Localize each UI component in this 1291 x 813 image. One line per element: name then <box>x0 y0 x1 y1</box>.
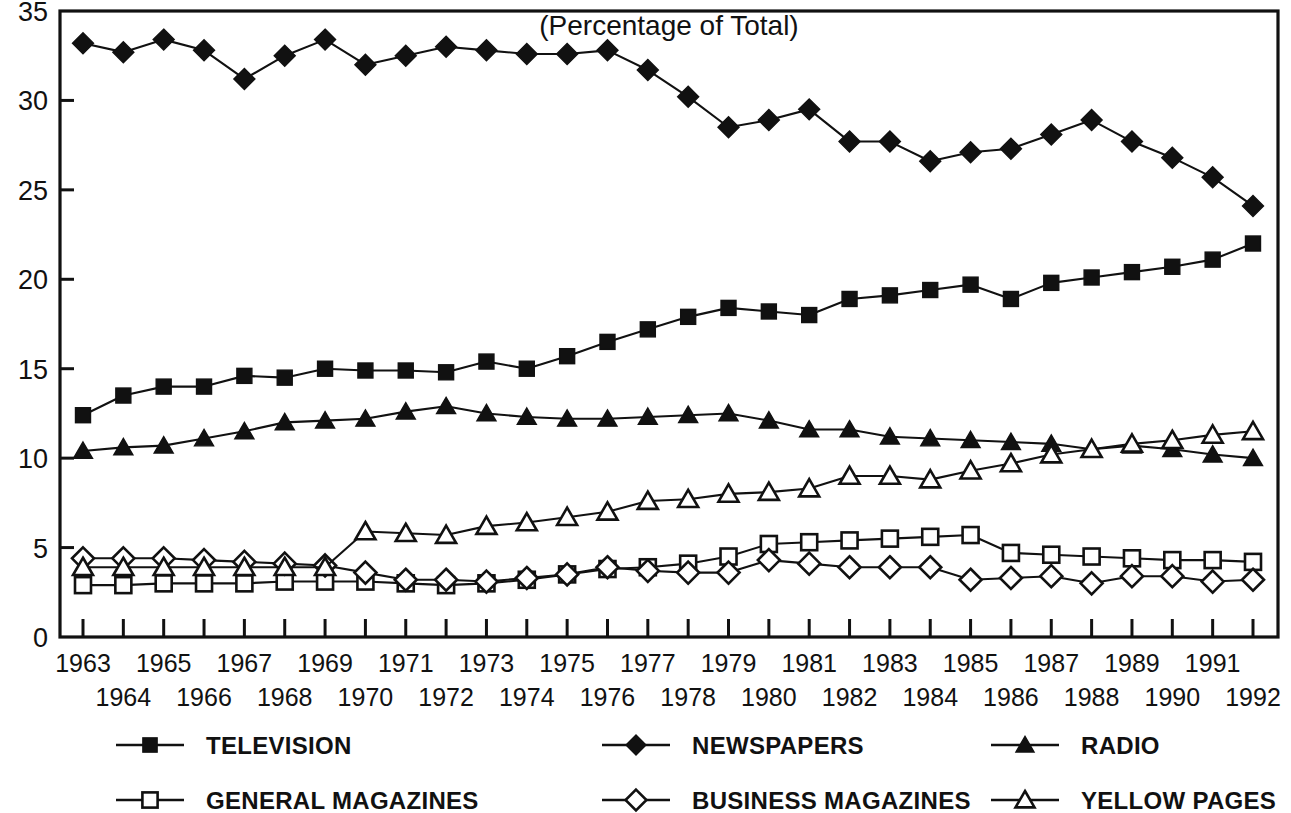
legend-entry-radio[interactable]: RADIO <box>991 732 1160 759</box>
marker-filled-square <box>560 349 575 364</box>
marker-open-diamond <box>1121 565 1143 587</box>
marker-filled-square <box>1003 291 1018 306</box>
x-tick-label-lower: 1970 <box>338 683 394 711</box>
marker-open-square <box>115 577 131 593</box>
marker-filled-square <box>156 379 171 394</box>
marker-filled-diamond <box>113 42 134 63</box>
marker-filled-diamond <box>476 40 497 61</box>
marker-open-diamond <box>798 553 820 575</box>
x-tick-label-upper: 1987 <box>1023 649 1079 677</box>
x-tick-label-lower: 1990 <box>1144 683 1200 711</box>
marker-filled-diamond <box>799 99 820 120</box>
marker-filled-square <box>802 308 817 323</box>
x-tick-label-lower: 1988 <box>1064 683 1120 711</box>
x-tick-label-upper: 1973 <box>459 649 515 677</box>
marker-filled-diamond <box>626 735 646 755</box>
x-tick-label-upper: 1977 <box>620 649 676 677</box>
series-newspapers <box>73 29 1264 216</box>
x-tick-label-upper: 1983 <box>862 649 918 677</box>
legend-entry-label: BUSINESS MAGAZINES <box>692 787 971 813</box>
series-line <box>83 535 1253 585</box>
x-tick-label-upper: 1989 <box>1104 649 1160 677</box>
marker-filled-square <box>600 334 615 349</box>
x-tick-label-lower: 1964 <box>96 683 152 711</box>
marker-filled-square <box>479 354 494 369</box>
marker-filled-diamond <box>1202 167 1223 188</box>
y-tick-label: 25 <box>18 176 48 206</box>
marker-filled-diamond <box>153 29 174 50</box>
marker-filled-square <box>143 738 157 752</box>
legend-entry-label: TELEVISION <box>206 732 352 759</box>
marker-filled-triangle <box>719 404 738 420</box>
marker-filled-square <box>842 291 857 306</box>
marker-open-diamond <box>919 556 941 578</box>
legend-entry-business-magazines[interactable]: BUSINESS MAGAZINES <box>602 787 971 813</box>
marker-filled-square <box>439 365 454 380</box>
marker-filled-diamond <box>718 117 739 138</box>
x-tick-label-lower: 1972 <box>418 683 474 711</box>
marker-filled-diamond <box>194 40 215 61</box>
marker-filled-square <box>519 361 534 376</box>
marker-filled-square <box>318 361 333 376</box>
legend-entry-label: NEWSPAPERS <box>692 732 864 759</box>
marker-open-square <box>1205 552 1221 568</box>
marker-filled-diamond <box>516 43 537 64</box>
series-line <box>83 558 1253 583</box>
x-tick-label-lower: 1982 <box>822 683 878 711</box>
marker-open-diamond <box>626 790 647 811</box>
marker-filled-square <box>761 304 776 319</box>
marker-filled-triangle <box>437 397 456 413</box>
marker-filled-square <box>1044 275 1059 290</box>
legend-entry-general-magazines[interactable]: GENERAL MAGAZINES <box>116 787 479 813</box>
line-chart-figure: (Percentage of Total) 35302520151050 196… <box>0 0 1291 813</box>
marker-open-diamond <box>1202 571 1224 593</box>
marker-filled-diamond <box>234 68 255 89</box>
marker-filled-square <box>923 283 938 298</box>
marker-filled-square <box>721 300 736 315</box>
marker-open-square <box>1003 545 1019 561</box>
chart-legend: TELEVISIONNEWSPAPERSRADIOGENERAL MAGAZIN… <box>116 732 1276 813</box>
marker-filled-square <box>197 379 212 394</box>
legend-entry-newspapers[interactable]: NEWSPAPERS <box>602 732 864 759</box>
marker-filled-diamond <box>758 110 779 131</box>
marker-filled-square <box>1246 236 1261 251</box>
marker-filled-square <box>237 368 252 383</box>
legend-entry-label: GENERAL MAGAZINES <box>206 787 479 813</box>
marker-filled-diamond <box>678 86 699 107</box>
marker-open-square <box>142 792 157 807</box>
marker-open-diamond <box>879 556 901 578</box>
legend-entry-label: YELLOW PAGES <box>1081 787 1276 813</box>
series-line <box>83 431 1253 567</box>
marker-filled-diamond <box>315 29 336 50</box>
marker-open-square <box>922 529 938 545</box>
marker-filled-diamond <box>960 142 981 163</box>
marker-filled-diamond <box>1243 195 1264 216</box>
marker-open-square <box>842 532 858 548</box>
x-tick-label-lower: 1980 <box>741 683 797 711</box>
series-line <box>83 40 1253 206</box>
chart-title: (Percentage of Total) <box>539 10 798 41</box>
legend-entry-label: RADIO <box>1081 732 1160 759</box>
marker-open-diamond <box>1040 565 1062 587</box>
marker-filled-square <box>116 388 131 403</box>
marker-filled-diamond <box>1162 147 1183 168</box>
marker-filled-square <box>1205 252 1220 267</box>
y-tick-label: 30 <box>18 86 48 116</box>
marker-filled-square <box>681 309 696 324</box>
plot-area-frame <box>60 11 1278 637</box>
series-television <box>76 236 1261 423</box>
x-tick-label-lower: 1984 <box>902 683 958 711</box>
x-tick-label-lower: 1976 <box>580 683 636 711</box>
legend-entry-yellow-pages[interactable]: YELLOW PAGES <box>991 787 1276 813</box>
x-tick-label-upper: 1985 <box>943 649 999 677</box>
marker-open-diamond <box>960 569 982 591</box>
marker-filled-diamond <box>436 36 457 57</box>
x-tick-label-upper: 1963 <box>55 649 111 677</box>
marker-open-square <box>236 575 252 591</box>
x-tick-label-upper: 1967 <box>217 649 273 677</box>
marker-open-square <box>1084 549 1100 565</box>
legend-entry-television[interactable]: TELEVISION <box>116 732 352 759</box>
y-tick-label: 15 <box>18 355 48 385</box>
marker-filled-diamond <box>1041 124 1062 145</box>
marker-filled-square <box>398 363 413 378</box>
